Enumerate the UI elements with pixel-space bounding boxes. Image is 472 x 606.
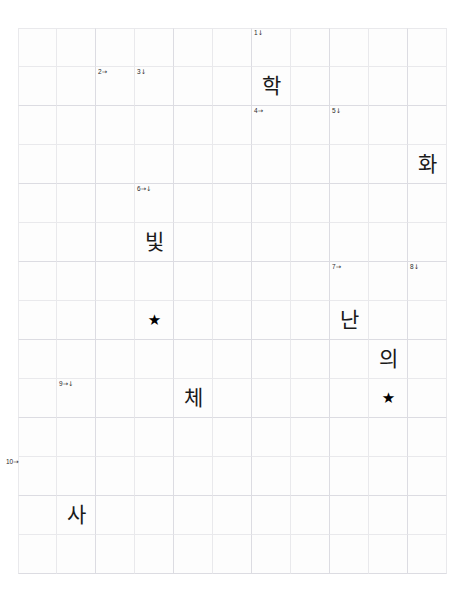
grid-cell-r0-c1[interactable] (57, 28, 96, 67)
grid-cell-r0-c2[interactable] (96, 28, 135, 67)
grid-cell-r10-c0[interactable] (18, 418, 57, 457)
grid-cell-r2-c7[interactable] (291, 106, 330, 145)
grid-cell-r9-c6[interactable] (252, 379, 291, 418)
grid-cell-r11-c1[interactable] (57, 457, 96, 496)
grid-cell-r5-c2[interactable] (96, 223, 135, 262)
grid-cell-r13-c1[interactable] (57, 535, 96, 574)
grid-cell-r1-c1[interactable] (57, 67, 96, 106)
grid-cell-r5-c10[interactable] (408, 223, 447, 262)
grid-cell-r6-c1[interactable] (57, 262, 96, 301)
grid-cell-r10-c4[interactable] (174, 418, 213, 457)
grid-cell-r2-c10[interactable] (408, 106, 447, 145)
grid-cell-r8-c5[interactable] (213, 340, 252, 379)
grid-cell-r13-c4[interactable] (174, 535, 213, 574)
grid-cell-r11-c0[interactable] (18, 457, 57, 496)
grid-cell-r3-c1[interactable] (57, 145, 96, 184)
grid-cell-r7-c9[interactable] (369, 301, 408, 340)
grid-cell-r3-c9[interactable] (369, 145, 408, 184)
grid-cell-r10-c6[interactable] (252, 418, 291, 457)
grid-cell-r8-c3[interactable] (135, 340, 174, 379)
grid-cell-r9-c7[interactable] (291, 379, 330, 418)
grid-cell-r5-c7[interactable] (291, 223, 330, 262)
grid-cell-r8-c10[interactable] (408, 340, 447, 379)
grid-cell-r13-c8[interactable] (330, 535, 369, 574)
grid-cell-r7-c0[interactable] (18, 301, 57, 340)
grid-cell-r6-c4[interactable] (174, 262, 213, 301)
grid-cell-r5-c5[interactable] (213, 223, 252, 262)
grid-cell-r13-c6[interactable] (252, 535, 291, 574)
grid-cell-r8-c0[interactable] (18, 340, 57, 379)
grid-cell-r11-c6[interactable] (252, 457, 291, 496)
grid-cell-r9-c3[interactable] (135, 379, 174, 418)
grid-cell-r13-c3[interactable] (135, 535, 174, 574)
grid-cell-r13-c10[interactable] (408, 535, 447, 574)
grid-cell-r8-c7[interactable] (291, 340, 330, 379)
grid-cell-r8-c4[interactable] (174, 340, 213, 379)
grid-cell-r1-c4[interactable] (174, 67, 213, 106)
grid-cell-r7-c1[interactable] (57, 301, 96, 340)
grid-cell-r12-c2[interactable] (96, 496, 135, 535)
grid-cell-r0-c10[interactable] (408, 28, 447, 67)
grid-cell-r2-c5[interactable] (213, 106, 252, 145)
grid-cell-r5-c0[interactable] (18, 223, 57, 262)
grid-cell-r9-c10[interactable] (408, 379, 447, 418)
grid-cell-r4-c8[interactable] (330, 184, 369, 223)
grid-cell-r2-c1[interactable] (57, 106, 96, 145)
grid-cell-r1-c9[interactable] (369, 67, 408, 106)
grid-cell-r3-c6[interactable] (252, 145, 291, 184)
grid-cell-r12-c4[interactable] (174, 496, 213, 535)
grid-cell-r13-c2[interactable] (96, 535, 135, 574)
grid-cell-r11-c5[interactable] (213, 457, 252, 496)
crossword-grid[interactable]: 학화빛난의체사★★1↓2→3↓4→5↓6→↓7→8↓9→↓10→ (18, 28, 447, 574)
grid-cell-r11-c4[interactable] (174, 457, 213, 496)
grid-cell-r0-c7[interactable] (291, 28, 330, 67)
grid-cell-r0-c9[interactable] (369, 28, 408, 67)
grid-cell-r12-c0[interactable] (18, 496, 57, 535)
grid-cell-r12-c9[interactable] (369, 496, 408, 535)
grid-cell-r4-c5[interactable] (213, 184, 252, 223)
grid-cell-r0-c5[interactable] (213, 28, 252, 67)
grid-cell-r1-c10[interactable] (408, 67, 447, 106)
grid-cell-r5-c8[interactable] (330, 223, 369, 262)
grid-cell-r4-c0[interactable] (18, 184, 57, 223)
grid-cell-r11-c3[interactable] (135, 457, 174, 496)
grid-cell-r10-c7[interactable] (291, 418, 330, 457)
grid-cell-r3-c2[interactable] (96, 145, 135, 184)
grid-cell-r7-c7[interactable] (291, 301, 330, 340)
grid-cell-r13-c0[interactable] (18, 535, 57, 574)
grid-cell-r10-c8[interactable] (330, 418, 369, 457)
grid-cell-r8-c2[interactable] (96, 340, 135, 379)
grid-cell-r4-c10[interactable] (408, 184, 447, 223)
grid-cell-r9-c8[interactable] (330, 379, 369, 418)
grid-cell-r7-c2[interactable] (96, 301, 135, 340)
grid-cell-r4-c6[interactable] (252, 184, 291, 223)
grid-cell-r2-c9[interactable] (369, 106, 408, 145)
grid-cell-r12-c5[interactable] (213, 496, 252, 535)
grid-cell-r8-c6[interactable] (252, 340, 291, 379)
grid-cell-r6-c9[interactable] (369, 262, 408, 301)
grid-cell-r1-c8[interactable] (330, 67, 369, 106)
grid-cell-r8-c8[interactable] (330, 340, 369, 379)
grid-cell-r2-c4[interactable] (174, 106, 213, 145)
grid-cell-r6-c5[interactable] (213, 262, 252, 301)
grid-cell-r12-c7[interactable] (291, 496, 330, 535)
grid-cell-r3-c8[interactable] (330, 145, 369, 184)
grid-cell-r5-c9[interactable] (369, 223, 408, 262)
grid-cell-r12-c3[interactable] (135, 496, 174, 535)
grid-cell-r12-c6[interactable] (252, 496, 291, 535)
grid-cell-r4-c1[interactable] (57, 184, 96, 223)
grid-cell-r5-c6[interactable] (252, 223, 291, 262)
grid-cell-r7-c6[interactable] (252, 301, 291, 340)
grid-cell-r6-c0[interactable] (18, 262, 57, 301)
grid-cell-r1-c5[interactable] (213, 67, 252, 106)
grid-cell-r6-c3[interactable] (135, 262, 174, 301)
grid-cell-r2-c3[interactable] (135, 106, 174, 145)
grid-cell-r7-c5[interactable] (213, 301, 252, 340)
grid-cell-r9-c2[interactable] (96, 379, 135, 418)
grid-cell-r0-c4[interactable] (174, 28, 213, 67)
grid-cell-r4-c9[interactable] (369, 184, 408, 223)
grid-cell-r6-c2[interactable] (96, 262, 135, 301)
grid-cell-r13-c9[interactable] (369, 535, 408, 574)
grid-cell-r3-c7[interactable] (291, 145, 330, 184)
grid-cell-r10-c1[interactable] (57, 418, 96, 457)
